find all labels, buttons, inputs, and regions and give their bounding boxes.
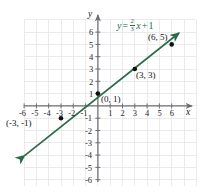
x-tick-label: -5 (31, 109, 38, 118)
point-label-0-1: (0, 1) (101, 95, 121, 104)
y-axis-label: y (88, 10, 92, 20)
y-tick-label: -5 (85, 164, 92, 173)
y-tick-label: 4 (89, 53, 93, 62)
x-tick-label: -2 (68, 109, 75, 118)
point-label-neg3-neg1: (-3, -1) (6, 119, 32, 128)
y-tick-label: 2 (89, 78, 93, 87)
y-tick-label: -6 (85, 176, 92, 185)
data-point (169, 42, 174, 47)
x-tick-label: 5 (157, 109, 161, 118)
x-tick-label: 1 (108, 109, 112, 118)
equation-constant: 1 (148, 20, 153, 31)
point-label-3-3: (3, 3) (136, 71, 156, 80)
y-tick-label: -3 (85, 139, 92, 148)
equation-label: y = 2 3 x + 1 (117, 18, 153, 33)
x-tick-label: 4 (145, 109, 149, 118)
data-point (96, 91, 101, 96)
y-tick-label: 1 (89, 90, 93, 99)
x-tick-label: -6 (19, 109, 26, 118)
equation-variable: x (136, 20, 140, 31)
x-tick-label: 2 (121, 109, 125, 118)
x-axis-label: x (186, 108, 190, 118)
coordinate-plane-figure: y = 2 3 x + 1 x y -6 -5 -4 -3 -2 -1 1 2 … (0, 0, 206, 195)
y-tick-label: 6 (89, 28, 93, 37)
y-tick-label: -1 (85, 114, 92, 123)
x-tick-label: 3 (133, 109, 137, 118)
y-tick-label: 3 (89, 65, 93, 74)
point-label-6-5: (6, 5) (148, 33, 168, 42)
fraction-numerator: 2 (130, 18, 135, 25)
y-tick-label: 5 (89, 41, 93, 50)
y-tick-label: -4 (85, 151, 92, 160)
fraction-denominator: 3 (130, 25, 135, 33)
y-tick-label: -2 (85, 127, 92, 136)
x-tick-label: -4 (44, 109, 51, 118)
equation-equals: = (122, 20, 128, 31)
equation-plus: + (142, 20, 148, 31)
fraction-two-thirds: 2 3 (130, 18, 135, 33)
equation-lhs: y (117, 20, 121, 31)
x-tick-label: 6 (170, 109, 174, 118)
x-tick-label: -3 (56, 109, 63, 118)
